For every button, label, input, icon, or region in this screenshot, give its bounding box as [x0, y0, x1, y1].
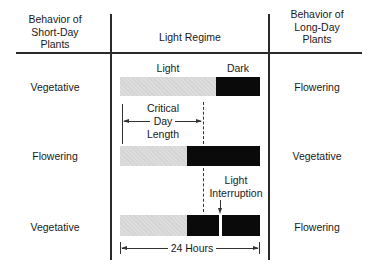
header-light-regime: Light Regime: [112, 31, 268, 44]
right-column-divider: [268, 14, 270, 260]
row1-long-day-behavior: Flowering: [272, 81, 362, 93]
header-long-day-plants: Behavior of Long-Day Plants: [272, 8, 362, 46]
light-interruption-label: Light Interruption: [204, 174, 268, 200]
arrow-down-icon: [218, 208, 222, 214]
light-period-label: Light: [148, 62, 188, 74]
24h-arrow-right-line: [216, 248, 258, 249]
row2-dark-bar: [187, 146, 260, 166]
header-divider: [16, 52, 362, 54]
row3-long-day-behavior: Flowering: [272, 221, 362, 233]
row3-dark-bar-1: [187, 215, 219, 236]
critical-day-length-label: Critical Day Length: [137, 102, 189, 141]
row1-short-day-behavior: Vegetative: [10, 81, 100, 93]
critical-day-end-dashed-line: [203, 102, 204, 144]
24h-arrow-left-line: [122, 248, 168, 249]
row2-short-day-behavior: Flowering: [10, 150, 100, 162]
row3-short-day-behavior: Vegetative: [10, 221, 100, 233]
24h-end-tick: [259, 242, 260, 254]
header-short-day-plants: Behavior of Short-Day Plants: [10, 13, 100, 51]
row1-dark-bar: [216, 77, 260, 96]
row3-dark-bar-2: [222, 215, 260, 236]
24-hours-label: 24 Hours: [166, 242, 218, 254]
row2-long-day-behavior: Vegetative: [272, 150, 362, 162]
critical-day-start-tick: [122, 104, 123, 144]
row1-light-bar: [120, 77, 216, 96]
left-column-divider: [110, 14, 112, 260]
arrow-right-icon: [196, 119, 202, 123]
dark-period-label: Dark: [218, 62, 258, 74]
arrow-left-icon: [121, 246, 127, 250]
arrow-left-icon: [123, 119, 129, 123]
row3-light-bar: [120, 215, 187, 236]
row2-light-bar: [120, 146, 187, 166]
arrow-right-icon: [253, 246, 259, 250]
